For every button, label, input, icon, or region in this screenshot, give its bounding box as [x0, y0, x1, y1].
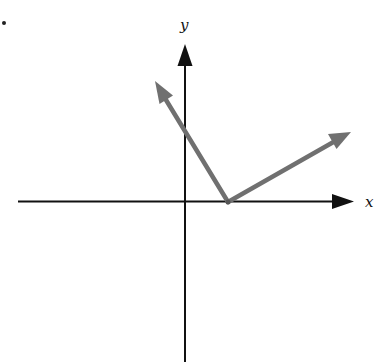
- vector-arrowhead-icon: [155, 81, 173, 104]
- y-axis-arrowhead-icon: [178, 44, 193, 66]
- vector-arrowhead-icon: [328, 132, 351, 149]
- bullet-dot: [2, 21, 6, 25]
- left-up-vector: [155, 81, 228, 202]
- right-up-vector: [228, 132, 351, 202]
- x-axis-label: x: [365, 193, 374, 211]
- y-axis-label: y: [179, 16, 189, 34]
- y-axis: [178, 44, 193, 362]
- coordinate-diagram: x y: [0, 0, 382, 363]
- vertex-point: [226, 200, 231, 205]
- x-axis-arrowhead-icon: [332, 194, 354, 209]
